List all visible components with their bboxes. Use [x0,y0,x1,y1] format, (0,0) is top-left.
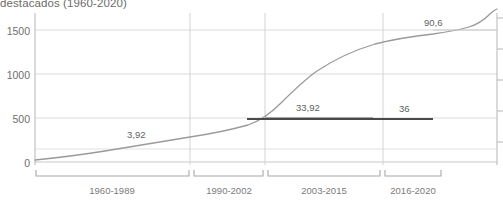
annotation-label-36: 36 [399,104,410,114]
period-bracket-1960-1989 [36,170,189,176]
plot-area: 3,92 33,92 36 90,6 [35,13,497,165]
annotation-label-33-92: 33,92 [296,103,320,113]
period-brackets [0,168,503,182]
period-axis: 1960-1989 1990-2002 2003-2015 2016-2020 [0,168,503,202]
annotation-label-90-6: 90,6 [424,18,443,28]
annotation-label-3-92: 3,92 [127,130,146,140]
y-tick-label-1000: 1000 [7,70,30,81]
period-label-2003-2015: 2003-2015 [274,186,374,196]
y-tick-label-500: 500 [12,114,30,125]
right-axis-ticks [497,18,503,142]
period-bracket-2016-2020 [385,170,441,176]
y-axis-labels: 1500 1000 500 0 [0,13,30,165]
period-bracket-1990-2002 [194,170,263,176]
period-label-2016-2020: 2016-2020 [363,186,463,196]
y-tick-label-1500: 1500 [7,26,30,37]
y-tick-label-0: 0 [24,158,30,169]
chart-container: destacados (1960-2020) 1500 1000 500 0 [0,0,503,202]
chart-title: destacados (1960-2020) [0,0,127,9]
annotation-lines-layer [35,13,497,165]
period-label-1960-1989: 1960-1989 [62,186,162,196]
period-bracket-2003-2015 [268,170,380,176]
period-label-1990-2002: 1990-2002 [179,186,279,196]
